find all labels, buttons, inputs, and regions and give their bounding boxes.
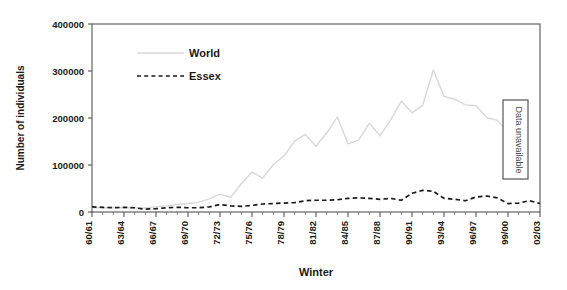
legend-label-world: World	[189, 47, 220, 59]
x-tick-label: 87/88	[371, 221, 382, 245]
line-chart: 0100000200000300000400000 60/6163/6466/6…	[0, 0, 567, 290]
plot-area-border	[92, 24, 540, 212]
x-axis-ticks	[92, 212, 540, 217]
y-tick-label: 200000	[52, 113, 84, 124]
y-axis-title: Number of individuals	[15, 65, 26, 170]
y-tick-label: 100000	[52, 160, 84, 171]
x-tick-label: 60/61	[83, 220, 94, 244]
x-tick-label: 78/79	[275, 221, 286, 245]
y-tick-label: 400000	[52, 19, 84, 30]
x-tick-label: 96/97	[467, 221, 478, 245]
x-tick-label: 93/94	[435, 220, 446, 244]
x-tick-label: 81/82	[307, 221, 318, 245]
chart-figure: 0100000200000300000400000 60/6163/6466/6…	[0, 0, 567, 290]
y-axis-tick-labels: 0100000200000300000400000	[52, 19, 84, 218]
x-tick-label: 84/85	[339, 220, 350, 244]
x-tick-label: 63/64	[115, 220, 126, 244]
x-tick-label: 72/73	[211, 221, 222, 245]
y-axis-ticks	[88, 24, 92, 212]
legend-label-essex: Essex	[189, 70, 222, 82]
y-tick-label: 0	[79, 207, 84, 218]
x-axis-title: Winter	[299, 266, 334, 278]
x-tick-label: 69/70	[179, 221, 190, 245]
x-tick-label: 75/76	[243, 221, 254, 245]
x-axis-tick-labels: 60/6163/6466/6769/7072/7375/7678/7981/82…	[83, 220, 542, 244]
x-tick-label: 99/00	[499, 221, 510, 245]
y-tick-label: 300000	[52, 66, 84, 77]
x-tick-label: 90/91	[403, 220, 414, 244]
x-tick-label: 02/03	[531, 221, 542, 245]
data-unavailable-annotation: Data unavailable	[503, 100, 528, 179]
x-tick-label: 66/67	[147, 221, 158, 245]
annotation-label: Data unavailable	[514, 106, 524, 173]
